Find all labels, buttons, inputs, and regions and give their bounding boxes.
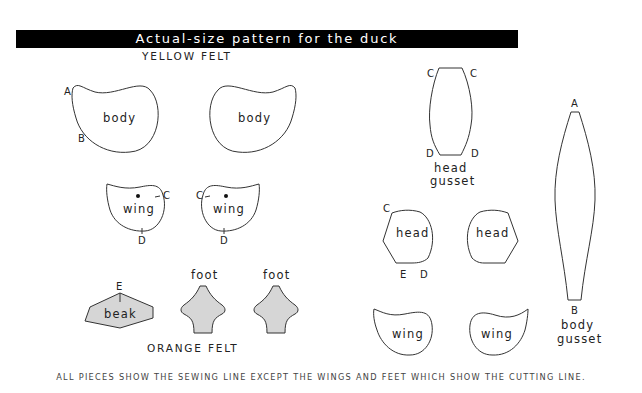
foot-piece-right: foot — [254, 268, 298, 333]
section-label-yellow-felt: YELLOW FELT — [141, 50, 232, 62]
piece-label-wing: wing — [392, 327, 424, 341]
point-label-d: D — [426, 148, 434, 159]
piece-label-wing: wing — [213, 202, 245, 216]
point-label-b: B — [571, 305, 578, 316]
point-label-c: C — [383, 203, 390, 214]
point-label-d: D — [220, 235, 228, 246]
point-label-a: A — [64, 86, 71, 97]
piece-label-beak: beak — [104, 307, 137, 321]
wing-large-piece-left: wing — [374, 309, 433, 355]
point-label-e: E — [400, 269, 406, 280]
point-label-c: C — [196, 190, 203, 201]
point-label-d: D — [471, 148, 479, 159]
point-label-d: D — [138, 235, 146, 246]
piece-label-body: body — [103, 111, 136, 125]
body-gusset-piece: A B body gusset — [555, 98, 602, 346]
body-piece-left: body A B — [64, 85, 158, 152]
piece-label-foot: foot — [191, 268, 218, 282]
point-label-c: C — [470, 68, 477, 79]
point-label-c: C — [163, 190, 170, 201]
piece-label-head-gusset: gusset — [430, 174, 475, 188]
head-gusset-piece: C C D D head gusset — [426, 68, 479, 188]
piece-label-body-gusset: body — [561, 318, 594, 332]
piece-label-body-gusset: gusset — [557, 332, 602, 346]
point-label-c: C — [427, 68, 434, 79]
wing-large-piece-right: wing — [470, 309, 528, 355]
piece-label-head-gusset: head — [434, 161, 468, 175]
point-label-e: E — [116, 281, 122, 292]
piece-label-body: body — [238, 111, 271, 125]
piece-label-foot: foot — [263, 268, 290, 282]
head-piece-left: head C E D — [383, 203, 433, 280]
section-label-orange-felt: ORANGE FELT — [147, 342, 239, 354]
foot-piece-left: foot — [181, 268, 225, 333]
footer-note: ALL PIECES SHOW THE SEWING LINE EXCEPT T… — [0, 372, 642, 382]
pattern-diagram: YELLOW FELT body A B body wing C D wing … — [0, 0, 642, 393]
wing-piece-right: wing C D — [196, 184, 259, 246]
point-label-d: D — [420, 269, 428, 280]
point-label-b: B — [78, 133, 85, 144]
piece-label-wing: wing — [123, 202, 155, 216]
wing-piece-left: wing C D — [107, 184, 170, 246]
body-piece-right: body — [210, 85, 296, 152]
piece-label-head: head — [476, 226, 510, 240]
head-piece-right: head — [467, 210, 518, 263]
piece-label-wing: wing — [481, 327, 513, 341]
beak-piece: E beak — [85, 281, 153, 328]
point-label-a: A — [571, 98, 578, 109]
piece-label-head: head — [396, 226, 430, 240]
